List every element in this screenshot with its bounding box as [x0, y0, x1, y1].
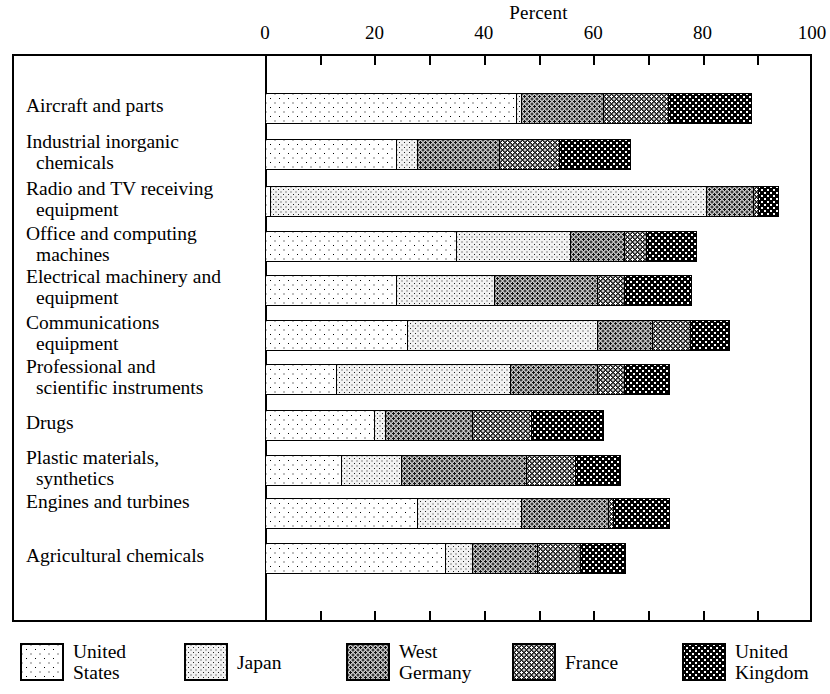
- segment-us-row-6: [266, 365, 337, 394]
- segment-us-row-8: [266, 456, 342, 485]
- legend-item-fr[interactable]: France: [512, 636, 618, 688]
- segment-jp-row-7: [375, 411, 386, 440]
- legend-item-wg[interactable]: West Germany: [346, 636, 472, 688]
- category-label-line2: machines: [26, 244, 262, 265]
- legend-item-jp[interactable]: Japan: [184, 636, 281, 688]
- category-label-line2: synthetics: [26, 468, 262, 489]
- segment-fr-row-1: [500, 140, 560, 169]
- bar-row-10: [265, 543, 626, 574]
- segment-wg-row-0: [522, 94, 604, 123]
- legend-label-us: United States: [73, 641, 126, 683]
- category-label-line1: Agricultural chemicals: [26, 545, 204, 566]
- segment-fr-row-0: [604, 94, 669, 123]
- category-label-line1: Industrial inorganic: [26, 131, 179, 152]
- segment-uk-row-0: [669, 94, 751, 123]
- legend: United StatesJapanWest GermanyFranceUnit…: [12, 636, 818, 692]
- segment-wg-row-7: [386, 411, 473, 440]
- category-label-5: Communicationsequipment: [26, 312, 262, 354]
- bar-row-2: [265, 186, 779, 217]
- segment-jp-row-2: [271, 187, 707, 216]
- segment-jp-row-1: [397, 140, 419, 169]
- bar-row-9: [265, 498, 670, 529]
- x-tick-label-100: 100: [798, 22, 827, 44]
- category-label-9: Engines and turbines: [26, 491, 262, 512]
- stacked-bar-chart: Percent 020406080100 Aircraft and partsI…: [0, 0, 830, 694]
- bar-row-0: [265, 93, 752, 124]
- category-label-line2: scientific instruments: [26, 377, 262, 398]
- category-label-line1: Plastic materials,: [26, 447, 159, 468]
- category-label-line2: chemicals: [26, 152, 262, 173]
- legend-swatch-wg-icon: [346, 643, 390, 681]
- bar-row-4: [265, 275, 692, 306]
- category-label-8: Plastic materials,synthetics: [26, 447, 262, 489]
- legend-label-jp: Japan: [237, 652, 281, 673]
- segment-wg-row-8: [402, 456, 527, 485]
- category-label-line1: Radio and TV receiving: [26, 178, 213, 199]
- segment-us-row-10: [266, 544, 446, 573]
- axis-title: Percent: [265, 2, 812, 24]
- category-label-line1: Engines and turbines: [26, 491, 190, 512]
- segment-uk-row-5: [691, 321, 729, 350]
- segment-wg-row-10: [473, 544, 538, 573]
- category-label-10: Agricultural chemicals: [26, 545, 262, 566]
- category-label-6: Professional andscientific instruments: [26, 356, 262, 398]
- category-label-line1: Aircraft and parts: [26, 95, 164, 116]
- segment-fr-row-4: [598, 276, 625, 305]
- category-label-line1: Professional and: [26, 356, 155, 377]
- segment-wg-row-6: [511, 365, 598, 394]
- legend-swatch-jp-icon: [184, 643, 228, 681]
- segment-uk-row-4: [625, 276, 690, 305]
- bar-row-7: [265, 410, 604, 441]
- category-label-line1: Drugs: [26, 412, 74, 433]
- segment-uk-row-1: [560, 140, 631, 169]
- x-tick-label-80: 80: [693, 22, 712, 44]
- legend-swatch-fr-icon: [512, 643, 556, 681]
- legend-label-uk: United Kingdom: [735, 641, 809, 683]
- category-label-3: Office and computingmachines: [26, 223, 262, 265]
- segment-us-row-9: [266, 499, 418, 528]
- category-label-line1: Electrical machinery and: [26, 266, 221, 287]
- segment-wg-row-9: [522, 499, 609, 528]
- legend-label-fr: France: [565, 652, 618, 673]
- segment-fr-row-8: [527, 456, 576, 485]
- segment-fr-row-7: [473, 411, 533, 440]
- segment-jp-row-10: [446, 544, 473, 573]
- segment-us-row-4: [266, 276, 397, 305]
- segment-fr-row-5: [653, 321, 691, 350]
- category-label-line1: Communications: [26, 312, 159, 333]
- bar-row-8: [265, 455, 621, 486]
- category-label-line1: Office and computing: [26, 223, 197, 244]
- segment-wg-row-5: [598, 321, 652, 350]
- segment-fr-row-6: [598, 365, 625, 394]
- bar-row-5: [265, 320, 730, 351]
- segment-wg-row-4: [495, 276, 598, 305]
- segment-wg-row-2: [707, 187, 753, 216]
- legend-swatch-uk-icon: [682, 643, 726, 681]
- segment-wg-row-1: [418, 140, 500, 169]
- segment-wg-row-3: [571, 232, 625, 261]
- x-tick-label-20: 20: [365, 22, 384, 44]
- category-label-line2: equipment: [26, 199, 262, 220]
- category-label-1: Industrial inorganicchemicals: [26, 131, 262, 173]
- segment-us-row-1: [266, 140, 397, 169]
- category-label-line2: equipment: [26, 287, 262, 308]
- segment-fr-row-3: [625, 232, 647, 261]
- segment-jp-row-5: [408, 321, 599, 350]
- segment-uk-row-3: [647, 232, 696, 261]
- segment-jp-row-3: [457, 232, 571, 261]
- category-label-line2: equipment: [26, 333, 262, 354]
- segment-uk-row-7: [532, 411, 603, 440]
- category-label-7: Drugs: [26, 412, 262, 433]
- bar-row-1: [265, 139, 631, 170]
- legend-item-uk[interactable]: United Kingdom: [682, 636, 809, 688]
- segment-uk-row-8: [576, 456, 620, 485]
- category-label-2: Radio and TV receivingequipment: [26, 178, 262, 220]
- segment-uk-row-10: [581, 544, 625, 573]
- category-label-4: Electrical machinery andequipment: [26, 266, 262, 308]
- legend-swatch-us-icon: [20, 643, 64, 681]
- segment-jp-row-6: [337, 365, 511, 394]
- segment-fr-row-10: [538, 544, 582, 573]
- legend-item-us[interactable]: United States: [20, 636, 126, 688]
- segment-us-row-3: [266, 232, 457, 261]
- segment-uk-row-2: [759, 187, 778, 216]
